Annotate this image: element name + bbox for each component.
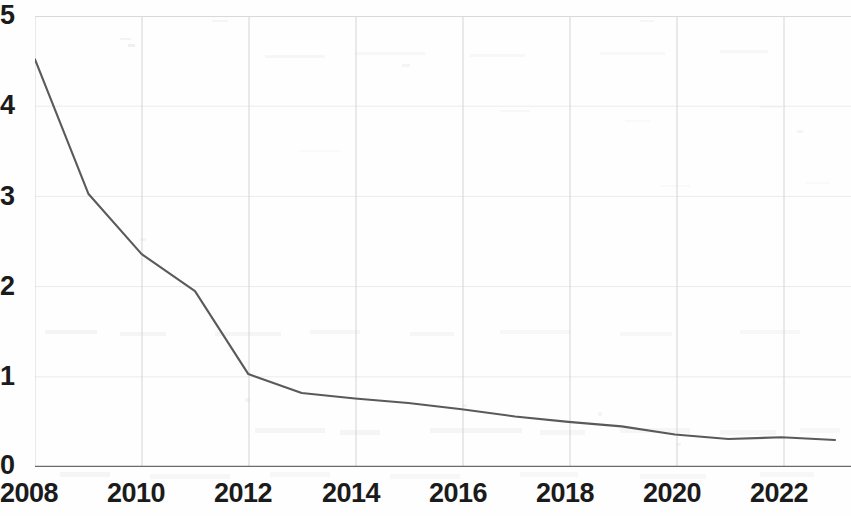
chart-page: 5 4 3 2 1 0 2008 2010 2012 2014 2016 201… — [0, 0, 851, 516]
y-tick-label-5: 5 — [0, 2, 28, 29]
x-tick-label-2012: 2012 — [214, 480, 272, 507]
horizontal-gridlines — [35, 106, 851, 377]
y-tick-label-3: 3 — [0, 183, 28, 210]
x-tick-label-2018: 2018 — [536, 480, 594, 507]
data-series-line — [35, 59, 835, 440]
y-tick-label-1: 1 — [0, 363, 28, 390]
x-tick-label-2008: 2008 — [0, 480, 58, 507]
x-tick-label-2010: 2010 — [107, 480, 165, 507]
y-tick-label-2: 2 — [0, 273, 28, 300]
line-chart-svg — [35, 16, 851, 467]
vertical-gridlines — [35, 16, 784, 467]
x-tick-label-2022: 2022 — [750, 480, 808, 507]
x-tick-label-2020: 2020 — [643, 480, 701, 507]
plot-area — [35, 16, 851, 467]
y-tick-label-0: 0 — [0, 452, 28, 479]
y-tick-label-4: 4 — [0, 92, 28, 119]
x-tick-label-2014: 2014 — [322, 480, 380, 507]
x-tick-label-2016: 2016 — [429, 480, 487, 507]
